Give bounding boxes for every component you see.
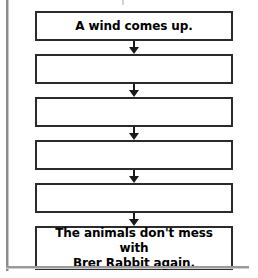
flow-arrow-3 [35, 127, 233, 140]
flow-box-3[interactable] [35, 97, 233, 127]
arrow-down-icon [129, 47, 139, 54]
flow-arrow-4 [35, 170, 233, 183]
flow-arrow-2 [35, 84, 233, 97]
flow-box-6: The animals don't mess with Brer Rabbit … [35, 226, 233, 270]
page-edge-left-rule-shadow [8, 0, 9, 271]
flow-box-1: A wind comes up. [35, 11, 233, 41]
flow-box-5[interactable] [35, 183, 233, 213]
flow-arrow-5 [35, 213, 233, 226]
page-edge-bottom-rule-shadow [6, 268, 249, 269]
worksheet-page: A wind comes up. [0, 0, 258, 278]
flowchart: A wind comes up. [35, 11, 233, 270]
arrow-down-icon [129, 133, 139, 140]
flow-box-2[interactable] [35, 54, 233, 84]
arrow-down-icon [129, 90, 139, 97]
flow-box-6-label: The animals don't mess with Brer Rabbit … [37, 226, 231, 271]
flow-arrow-1 [35, 41, 233, 54]
flow-box-1-label: A wind comes up. [71, 19, 196, 34]
arrow-down-icon [129, 176, 139, 183]
cropped-descender-mark [122, 0, 124, 5]
flow-box-4[interactable] [35, 140, 233, 170]
